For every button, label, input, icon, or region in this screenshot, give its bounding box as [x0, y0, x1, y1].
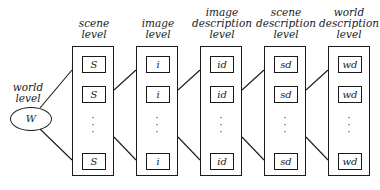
image-description-cell: id: [210, 86, 234, 103]
ellipsis-icon: ···: [329, 115, 369, 136]
world-description-cell: wd: [338, 56, 362, 73]
world-label-line2: level: [2, 93, 54, 104]
scene-level-title: scene level: [60, 7, 128, 40]
world-description-level-column: wd wd ··· wd: [328, 46, 370, 176]
world-description-cell: wd: [338, 86, 362, 103]
scene-description-level-title: scene description level: [250, 7, 322, 40]
scene-level-column: S S ··· S: [72, 46, 114, 176]
ellipsis-icon: ···: [201, 115, 241, 136]
image-level-title: image level: [124, 7, 192, 40]
world-level-label: world level: [2, 82, 54, 104]
world-description-cell: wd: [338, 153, 362, 170]
image-cell: i: [146, 86, 170, 103]
scene-description-level-column: sd sd ··· sd: [264, 46, 306, 176]
world-node: W: [10, 107, 52, 131]
scene-description-cell: sd: [274, 56, 298, 73]
ellipsis-icon: ···: [137, 115, 177, 136]
image-cell: i: [146, 56, 170, 73]
scene-cell: S: [82, 153, 106, 170]
scene-description-cell: sd: [274, 153, 298, 170]
scene-description-cell: sd: [274, 86, 298, 103]
scene-cell: S: [82, 56, 106, 73]
world-description-level-title: world description level: [313, 7, 380, 40]
image-level-column: i i ··· i: [136, 46, 178, 176]
image-description-level-column: id id ··· id: [200, 46, 242, 176]
image-description-cell: id: [210, 153, 234, 170]
image-description-cell: id: [210, 56, 234, 73]
ellipsis-icon: ···: [265, 115, 305, 136]
image-cell: i: [146, 153, 170, 170]
scene-cell: S: [82, 86, 106, 103]
image-description-level-title: image description level: [186, 7, 258, 40]
ellipsis-icon: ···: [73, 115, 113, 136]
level-hierarchy-diagram: world level W scene level image level im…: [0, 0, 380, 190]
